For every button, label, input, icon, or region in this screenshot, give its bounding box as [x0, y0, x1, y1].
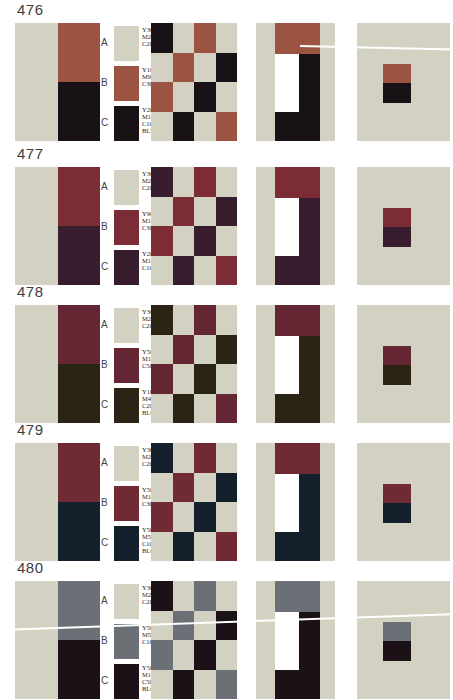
checker-cell-b — [151, 82, 173, 112]
center-rect-panel — [357, 443, 450, 561]
legend-letter-c: C — [101, 537, 108, 548]
checker-cell-c — [173, 670, 195, 700]
legend-swatch-a — [114, 26, 139, 61]
center-rect-panel — [357, 581, 450, 699]
checker-cell-c — [194, 364, 216, 394]
row-panels: A Y30 M20 C20 B Y100 M90 C30 — [0, 23, 453, 141]
checker-cell-c — [173, 112, 195, 142]
color-scheme-row: 479 A Y30 M20 C20 B — [0, 420, 453, 561]
checker-cell-a — [151, 532, 173, 562]
checker-cell-c — [173, 256, 195, 286]
checker-cell-c — [194, 82, 216, 112]
checker-cell-c — [194, 502, 216, 532]
door-top-band — [275, 581, 320, 612]
legend-swatch-b — [114, 210, 139, 245]
checker-cell-c — [151, 443, 173, 473]
legend-swatch-b — [114, 486, 139, 521]
checker-cell-a — [194, 112, 216, 142]
legend-letter-b: B — [101, 497, 108, 508]
center-rect-bottom — [383, 503, 411, 523]
door-top-band — [275, 23, 320, 54]
legend-letter-c: C — [101, 117, 108, 128]
center-rect-top — [383, 64, 411, 83]
checker-cell-a — [173, 167, 195, 197]
checker-cell-a — [216, 23, 238, 53]
field-panel-column — [58, 305, 100, 423]
checker-cell-a — [173, 305, 195, 335]
checker-cell-a — [151, 670, 173, 700]
door-white-window — [275, 474, 299, 532]
door-figure — [275, 167, 320, 285]
legend-swatch-a — [114, 170, 139, 205]
row-number-label: 478 — [17, 283, 44, 300]
center-rect-bottom — [383, 83, 411, 103]
door-figure-panel — [256, 581, 335, 699]
checker-cell-c — [151, 581, 173, 611]
checker-cell-a — [151, 256, 173, 286]
legend-letter-c: C — [101, 675, 108, 686]
legend-swatch-c — [114, 664, 139, 699]
checker-cell-c — [151, 305, 173, 335]
door-white-window — [275, 198, 299, 256]
legend-letter-a: A — [101, 181, 108, 192]
checker-cell-b — [173, 53, 195, 83]
center-rect-top — [383, 346, 411, 365]
field-color-c-block — [58, 640, 100, 699]
checker-cell-c — [194, 226, 216, 256]
door-figure-panel — [256, 305, 335, 423]
door-side-column — [299, 474, 320, 532]
door-figure — [275, 23, 320, 141]
checker-cell-b — [151, 226, 173, 256]
door-bottom-band — [275, 394, 320, 423]
legend-swatch-c — [114, 526, 139, 561]
door-bottom-band — [275, 532, 320, 561]
row-number-label: 477 — [17, 145, 44, 162]
door-figure-panel — [256, 443, 335, 561]
door-bottom-band — [275, 670, 320, 699]
checker-cell-c — [173, 394, 195, 424]
checker-cell-b — [194, 167, 216, 197]
row-panels: A Y30 M20 C20 B Y90 M100 C30 — [0, 167, 453, 285]
checker-cell-b — [194, 443, 216, 473]
checker-cell-c — [173, 532, 195, 562]
field-panel — [15, 23, 100, 141]
center-rect — [383, 484, 411, 523]
center-rect — [383, 346, 411, 385]
color-scheme-row: 480 A Y30 M20 C20 B — [0, 558, 453, 699]
checker-cell-a — [216, 443, 238, 473]
center-rect-bottom — [383, 365, 411, 385]
field-color-c-block — [58, 226, 100, 285]
row-number-label: 479 — [17, 421, 44, 438]
checker-cell-b — [216, 112, 238, 142]
door-white-window — [275, 54, 299, 112]
legend-letter-a: A — [101, 595, 108, 606]
checker-cell-b — [173, 197, 195, 227]
checker-cell-c — [216, 335, 238, 365]
checker-cell-a — [151, 394, 173, 424]
field-color-b-block — [58, 23, 100, 82]
checker-cell-a — [151, 53, 173, 83]
checker-cell-a — [194, 335, 216, 365]
field-panel — [15, 443, 100, 561]
row-number-label: 480 — [17, 559, 44, 576]
legend-swatch-b — [114, 66, 139, 101]
field-panel — [15, 581, 100, 699]
center-rect — [383, 208, 411, 247]
legend-swatch-c — [114, 106, 139, 141]
door-figure-panel — [256, 23, 335, 141]
legend-letter-b: B — [101, 77, 108, 88]
door-figure — [275, 305, 320, 423]
checker-cell-a — [194, 256, 216, 286]
field-color-c-block — [58, 502, 100, 561]
legend-swatch-a — [114, 308, 139, 343]
field-color-b-block — [58, 581, 100, 640]
field-color-c-block — [58, 364, 100, 423]
checker-cell-a — [151, 611, 173, 641]
center-rect-bottom — [383, 641, 411, 661]
field-panel-column — [58, 443, 100, 561]
field-panel — [15, 167, 100, 285]
checker-cell-a — [173, 364, 195, 394]
door-middle — [275, 198, 320, 256]
checker-cell-a — [173, 581, 195, 611]
